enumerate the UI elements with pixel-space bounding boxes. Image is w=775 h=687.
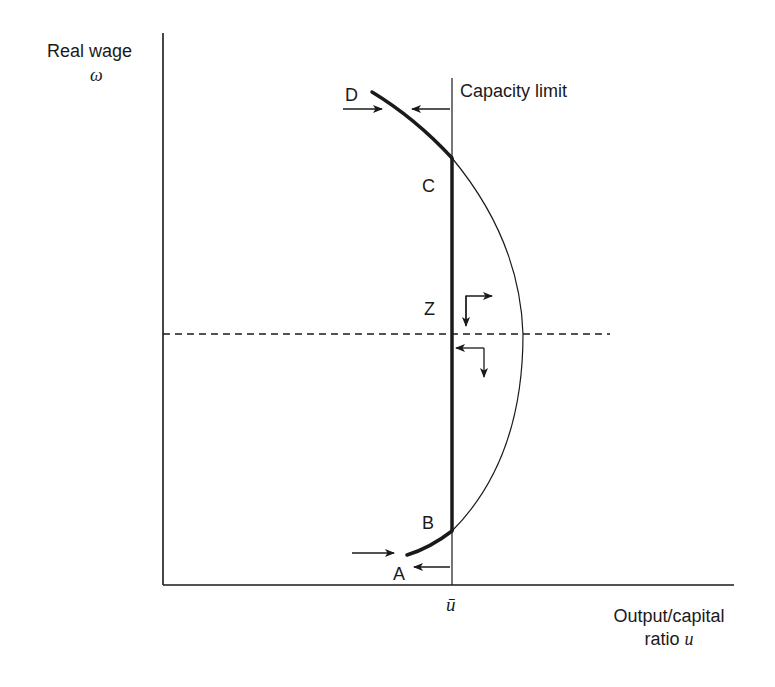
thick-segment-ba: [407, 531, 452, 555]
point-label-z: Z: [424, 300, 435, 318]
x-axis-label-line1: Output/capital: [594, 605, 744, 628]
x-axis-label-ratio: ratio: [644, 629, 679, 649]
point-label-d: D: [345, 86, 358, 104]
thin-curve: [372, 92, 523, 555]
x-axis-tick-u-bar: ū: [446, 595, 456, 614]
point-label-c: C: [422, 177, 435, 195]
thick-segment-dc: [372, 92, 452, 158]
z-lower-arrows-icon: [456, 348, 484, 377]
capacity-limit-label: Capacity limit: [460, 82, 567, 100]
diagram-canvas: [0, 0, 775, 687]
y-axis-symbol: ω: [90, 66, 103, 84]
point-label-b: B: [422, 514, 434, 532]
x-axis-symbol: u: [685, 629, 694, 649]
point-label-a: A: [393, 565, 405, 583]
x-axis-label-line2: ratio u: [594, 628, 744, 651]
z-upper-arrows-icon: [466, 296, 492, 326]
y-axis-label: Real wage: [47, 42, 132, 60]
x-axis-label: Output/capital ratio u: [594, 605, 744, 650]
axes: [163, 33, 734, 585]
